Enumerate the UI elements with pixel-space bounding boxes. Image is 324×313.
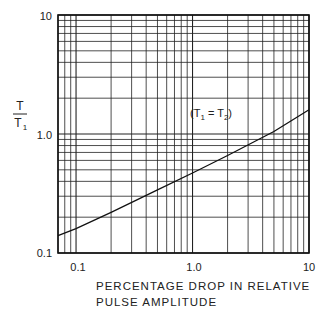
x-tick-label: 10 <box>303 261 315 273</box>
log-log-chart: 10 1.0 0.1 0.1 1.0 10 T T 1 (T1 = T2) PE… <box>0 0 324 313</box>
data-curve <box>58 110 309 236</box>
svg-text:1: 1 <box>23 123 28 132</box>
y-axis-label: T T 1 <box>13 99 28 132</box>
x-tick-label: 1.0 <box>186 261 201 273</box>
y-tick-label: 1.0 <box>37 129 52 141</box>
x-axis-label-line2: PULSE AMPLITUDE <box>96 296 217 308</box>
x-axis-label-line1: PERCENTAGE DROP IN RELATIVE <box>96 280 310 292</box>
svg-text:T: T <box>16 99 24 113</box>
y-tick-label: 10 <box>40 10 52 22</box>
x-tick-label: 0.1 <box>70 261 85 273</box>
curve-annotation: (T1 = T2) <box>190 107 232 122</box>
grid <box>58 15 309 253</box>
svg-text:T: T <box>14 116 22 130</box>
y-tick-label: 0.1 <box>37 247 52 259</box>
